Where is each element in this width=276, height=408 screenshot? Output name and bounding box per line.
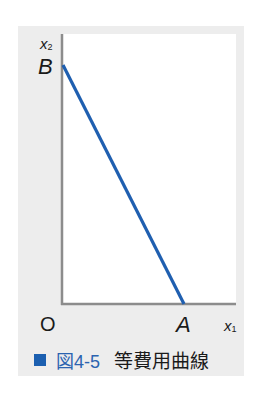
point-a-label: A [176, 314, 191, 336]
isocost-line [63, 65, 184, 304]
y-axis-label: x2 [40, 36, 53, 52]
caption-square-icon [34, 354, 46, 366]
figure-title: 等費用曲線 [114, 346, 209, 373]
origin-label: O [40, 314, 56, 334]
figure-number: 図4-5 [56, 347, 100, 373]
figure-caption: 図4-5 等費用曲線 [34, 346, 209, 373]
x-axis-label: x1 [224, 318, 237, 334]
point-b-label: B [38, 56, 53, 78]
